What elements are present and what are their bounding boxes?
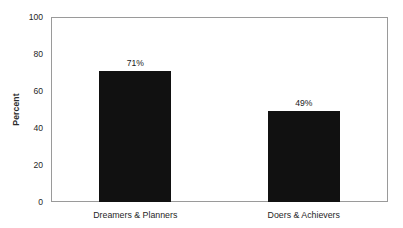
y-tick-label: 20 xyxy=(33,159,43,171)
y-axis-title: Percent xyxy=(9,17,23,202)
y-tick-label: 80 xyxy=(33,48,43,60)
chart-figure: Percent 020406080100 71%Dreamers & Plann… xyxy=(0,0,403,228)
y-tick-label: 60 xyxy=(33,85,43,97)
clipped-title-text xyxy=(51,0,341,5)
y-tick-label: 100 xyxy=(29,11,43,23)
bar-value-label: 49% xyxy=(264,98,344,109)
bar-value-label: 71% xyxy=(95,58,175,69)
y-tick-label: 0 xyxy=(38,196,43,208)
y-tick-label: 40 xyxy=(33,122,43,134)
bar xyxy=(268,111,340,202)
x-axis-category-label: Doers & Achievers xyxy=(219,209,389,221)
bar xyxy=(99,71,171,202)
x-axis-category-label: Dreamers & Planners xyxy=(50,209,220,221)
